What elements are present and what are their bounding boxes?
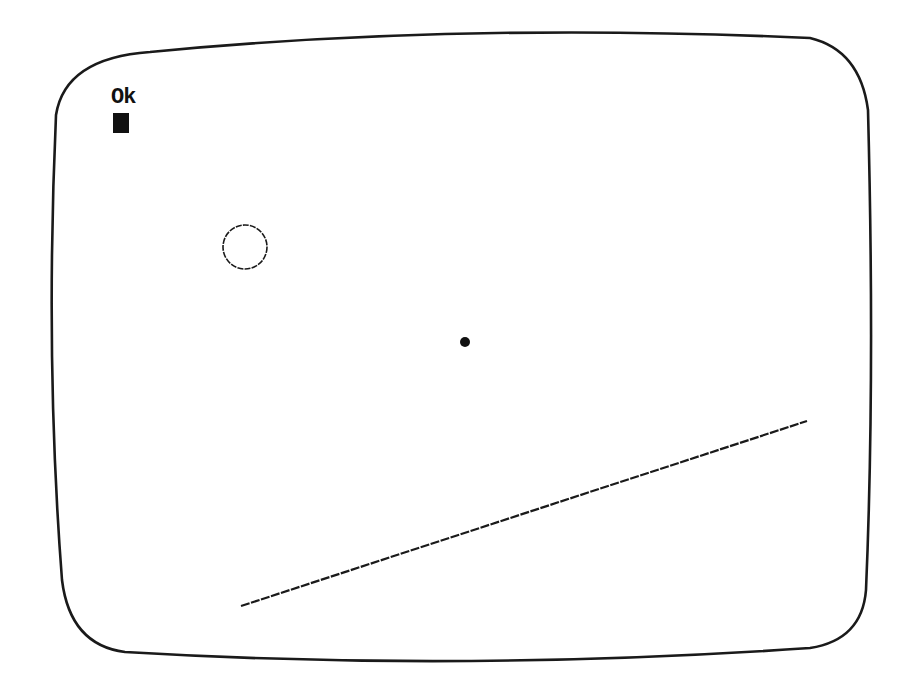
screen-graphics — [0, 0, 915, 696]
drawn-point — [460, 337, 470, 347]
block-cursor — [113, 113, 129, 133]
drawn-circle — [223, 225, 267, 269]
screen-bezel-outline — [52, 32, 871, 661]
drawn-line — [241, 421, 807, 606]
ok-prompt: Ok — [111, 87, 135, 109]
